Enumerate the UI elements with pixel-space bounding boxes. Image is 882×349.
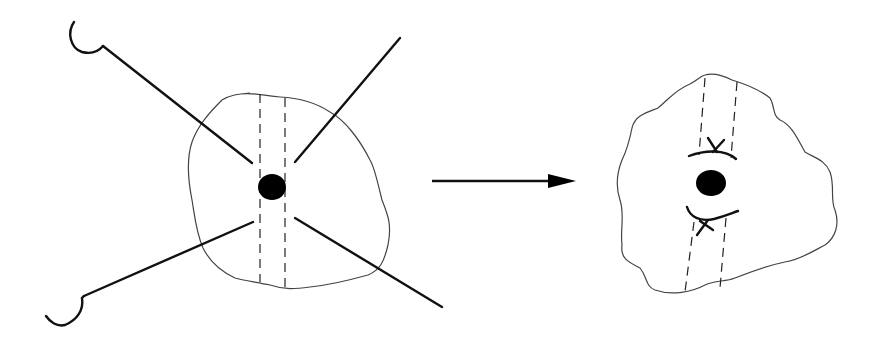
dashed-channel-line xyxy=(731,82,737,158)
suture-knot-lower-icon xyxy=(697,220,713,235)
tissue-outline-right xyxy=(617,74,837,293)
hooked-needle-upper-left xyxy=(70,22,103,53)
hooked-needle-lower-left xyxy=(46,296,84,325)
suture-line-upper-right xyxy=(295,38,400,162)
tied-suture-arc-lower xyxy=(687,207,738,220)
tissue-outline-left xyxy=(188,93,389,289)
transition-arrow xyxy=(432,174,576,188)
before-panel xyxy=(46,22,442,325)
after-panel xyxy=(617,74,837,293)
arrow-head-icon xyxy=(548,174,576,188)
center-dot-icon xyxy=(696,170,726,196)
suture-line-lower-right xyxy=(295,218,442,307)
suture-line-upper-left xyxy=(103,46,252,163)
dashed-channel-line xyxy=(699,78,705,155)
diagram-canvas xyxy=(0,0,882,349)
center-dot-icon xyxy=(258,174,286,200)
dashed-channel-line xyxy=(685,222,694,292)
suture-knot-upper-icon xyxy=(708,138,724,152)
dashed-channel-line xyxy=(720,218,726,288)
suture-line-lower-left xyxy=(84,222,253,296)
